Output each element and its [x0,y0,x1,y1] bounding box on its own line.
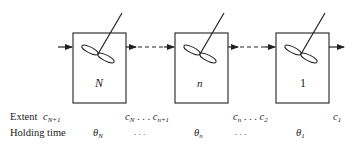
impeller-icon [284,43,319,65]
tank-label: 1 [300,77,306,89]
tank-n [175,13,228,103]
tank-label: N [95,77,103,89]
row-label-holding-time: Holding time [10,128,66,139]
extent-value: cn . . . c2 [233,112,268,124]
impeller-icon [81,43,116,65]
impeller-icon [183,43,218,65]
holding-time-value: θn [194,128,203,140]
ellipsis: . . . [235,128,246,137]
extent-value: cN+1 [43,112,61,124]
extent-value: cN . . . cn+1 [125,112,169,124]
extent-value: c1 [333,112,341,124]
holding-time-value: θ1 [296,128,305,140]
holding-time-value: θN [93,128,103,140]
tank-label: n [197,78,203,89]
row-label-extent: Extent [10,112,37,123]
ellipsis: . . . [134,128,145,137]
